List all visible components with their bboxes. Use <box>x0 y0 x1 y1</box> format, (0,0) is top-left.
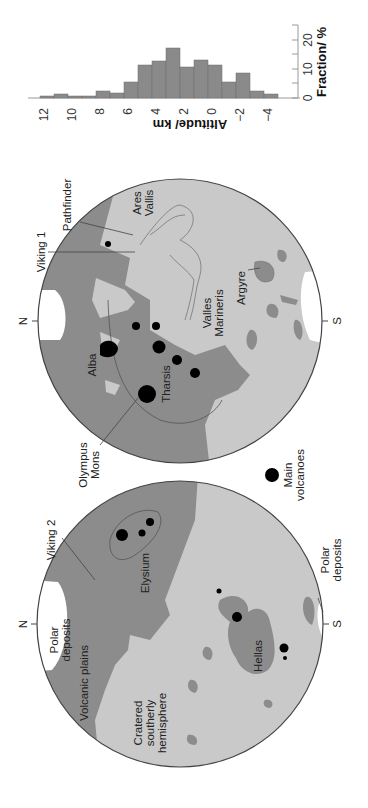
svg-text:12: 12 <box>37 108 51 122</box>
volcano <box>132 322 140 330</box>
bar <box>82 96 96 98</box>
bar <box>236 73 250 98</box>
legend-main-volcanoes: Main volcanoes <box>265 449 306 501</box>
svg-text:6: 6 <box>121 108 135 115</box>
svg-text:−2: −2 <box>233 108 247 122</box>
label-valles: Valles <box>201 298 213 329</box>
volcano <box>146 518 154 526</box>
bar <box>222 82 236 98</box>
legend-main: Main <box>282 463 294 488</box>
svg-text:10: 10 <box>65 108 79 122</box>
svg-text:0: 0 <box>301 94 315 101</box>
north-polar-cap <box>30 290 65 340</box>
volcano <box>172 355 182 365</box>
svg-text:8: 8 <box>93 108 107 115</box>
volcano-legend-icon <box>265 468 279 482</box>
altitude-axis-label: Altitude/ km <box>153 117 227 132</box>
bar <box>152 61 166 98</box>
label-olympus: Olympus <box>77 442 89 488</box>
volcano-olympus-mons <box>138 385 156 403</box>
volcano <box>116 529 128 541</box>
bar <box>250 91 264 98</box>
volcano <box>280 644 289 653</box>
map-eastern-hemisphere: N S Viking 1 Pathfinder Ares Vallis Vall… <box>17 170 343 488</box>
label-southerly: southerly <box>144 699 156 746</box>
label-marineris: Marineris <box>213 289 225 337</box>
bar <box>166 48 180 98</box>
bar <box>110 93 124 98</box>
map-western-hemisphere: N S Viking 2 Elysium Polar deposits Pola… <box>17 475 343 775</box>
histogram-bars <box>40 48 278 98</box>
label-volcanic-plains: Volcanic plains <box>78 645 90 721</box>
bar <box>124 82 138 98</box>
volcano <box>283 656 287 660</box>
label-vallis: Vallis <box>143 189 155 216</box>
bar <box>194 60 208 98</box>
label-viking-1: Viking 1 <box>35 232 47 273</box>
bar <box>54 94 68 98</box>
volcano <box>139 530 146 537</box>
label-mons: Mons <box>89 451 101 479</box>
label-pathfinder: Pathfinder <box>61 179 73 232</box>
label-ares: Ares <box>131 191 143 215</box>
label-polar-south: Polar <box>319 546 331 573</box>
label-polar-north: Polar <box>48 626 60 653</box>
north-label: N <box>17 317 29 325</box>
bar <box>40 96 54 98</box>
label-alba: Alba <box>86 353 98 377</box>
volcano <box>153 341 166 354</box>
svg-text:10: 10 <box>301 62 315 76</box>
volcano <box>217 589 222 594</box>
label-deposits-north: deposits <box>60 618 72 661</box>
south-label: S <box>331 620 343 628</box>
mars-figure: 12 10 8 6 4 2 0 −2 −4 Altitude/ km 0 10 … <box>0 0 368 808</box>
svg-text:0: 0 <box>205 108 219 115</box>
north-label: N <box>17 620 29 628</box>
label-argyre: Argyre <box>235 271 247 305</box>
bar <box>138 65 152 98</box>
label-tharsis: Tharsis <box>160 365 172 403</box>
svg-text:2: 2 <box>177 108 191 115</box>
bar <box>68 96 82 98</box>
bar <box>180 67 194 98</box>
fraction-tick-labels: 0 10 20 <box>301 33 315 101</box>
bar <box>96 91 110 98</box>
label-elysium: Elysium <box>139 553 151 593</box>
svg-text:−4: −4 <box>261 108 275 122</box>
label-deposits-south: deposits <box>331 538 343 581</box>
svg-text:20: 20 <box>301 33 315 47</box>
south-label: S <box>331 317 343 325</box>
fraction-axis-label: Fraction/ % <box>314 27 329 98</box>
volcano <box>105 241 111 247</box>
bar <box>208 65 222 98</box>
volcano <box>232 612 242 622</box>
svg-text:4: 4 <box>149 108 163 115</box>
label-hellas: Hellas <box>252 640 264 672</box>
label-hemisphere: hemisphere <box>156 693 168 753</box>
volcano <box>190 368 200 378</box>
label-viking-2: Viking 2 <box>45 520 57 561</box>
bar <box>264 94 278 98</box>
legend-volcanoes: volcanoes <box>294 449 306 501</box>
label-cratered: Cratered <box>132 701 144 746</box>
altitude-histogram: 12 10 8 6 4 2 0 −2 −4 Altitude/ km 0 10 … <box>28 25 329 132</box>
volcano <box>152 322 160 330</box>
